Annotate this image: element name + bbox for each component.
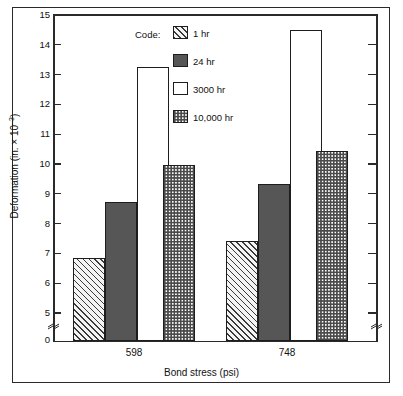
y-tick-mark [53, 134, 61, 135]
y-tick-mark-right [368, 253, 376, 254]
y-tick-label: 8 [28, 219, 50, 229]
bar-748-1-hr [226, 241, 258, 341]
legend-title: Code: [135, 29, 160, 40]
legend-swatch-icon [173, 82, 188, 95]
plot-top-border [53, 14, 377, 16]
legend-swatch-icon [173, 54, 188, 67]
bar-chart: 567891011121314150 598748 Code: 1 hr24 h… [0, 0, 403, 396]
x-axis-title: Bond stress (psi) [0, 367, 403, 378]
legend-swatch-icon [173, 26, 188, 39]
bar-748-10-000-hr [316, 151, 348, 341]
y-tick-mark [53, 74, 61, 75]
y-tick-label: 11 [28, 129, 50, 139]
y-tick-label: 15 [28, 10, 50, 20]
y-tick-label-zero: 0 [28, 335, 50, 345]
bar-598-1-hr [73, 258, 105, 341]
y-tick-label: 7 [28, 248, 50, 258]
y-tick-mark-right [368, 193, 376, 194]
legend-swatch-icon [173, 110, 188, 123]
bar-598-10-000-hr [163, 165, 195, 341]
y-axis-title-close: ) [9, 114, 20, 117]
y-tick-label: 6 [28, 278, 50, 288]
y-axis-title-text: Deformation (in. × 10 [9, 125, 20, 219]
y-tick-mark-right [368, 104, 376, 105]
y-tick-mark-right [368, 134, 376, 135]
y-tick-mark-right [368, 312, 376, 313]
x-axis-label-598: 598 [73, 347, 195, 358]
y-tick-mark [53, 223, 61, 224]
y-tick-mark-right [368, 283, 376, 284]
legend-item-label: 10,000 hr [193, 112, 233, 123]
y-tick-mark [53, 253, 61, 254]
y-tick-label: 14 [28, 40, 50, 50]
y-tick-mark-right [368, 74, 376, 75]
y-tick-mark-right [368, 163, 376, 164]
y-tick-mark [53, 104, 61, 105]
y-tick-mark [53, 312, 61, 313]
y-tick-mark [53, 193, 61, 194]
x-axis-label-748: 748 [226, 347, 348, 358]
y-tick-mark [53, 283, 61, 284]
y-axis-title: Deformation (in. × 10–3) [8, 66, 20, 266]
legend-item-label: 1 hr [193, 28, 209, 39]
y-tick-label: 5 [28, 308, 50, 318]
y-tick-mark-right [368, 14, 376, 15]
legend-item-label: 24 hr [193, 56, 215, 67]
y-axis-title-exponent: –3 [8, 117, 15, 125]
bar-748-24-hr [258, 184, 290, 341]
legend-item-label: 3000 hr [193, 84, 225, 95]
y-tick-mark-right [368, 44, 376, 45]
y-tick-label: 9 [28, 189, 50, 199]
y-tick-label: 10 [28, 159, 50, 169]
y-tick-mark [53, 163, 61, 164]
y-tick-label: 13 [28, 70, 50, 80]
y-tick-mark-right [368, 223, 376, 224]
y-tick-mark [53, 44, 61, 45]
y-tick-mark [53, 14, 61, 15]
bar-598-24-hr [105, 202, 137, 341]
y-tick-label: 12 [28, 99, 50, 109]
y-axis-line [53, 14, 55, 342]
y-axis-line-right [376, 14, 378, 342]
